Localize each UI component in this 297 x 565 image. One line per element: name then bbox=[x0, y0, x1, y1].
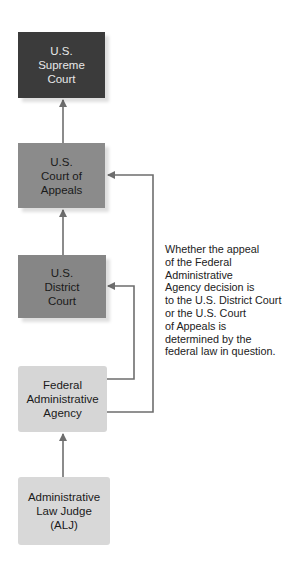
node-federal-agency: Federal Administrative Agency bbox=[18, 366, 107, 432]
node-district-court: U.S. District Court bbox=[18, 255, 106, 318]
explanatory-note: Whether the appeal of the Federal Admini… bbox=[165, 243, 297, 358]
node-alj-label: Administrative Law Judge (ALJ) bbox=[28, 490, 100, 532]
node-court-of-appeals: U.S. Court of Appeals bbox=[18, 143, 105, 208]
node-district-court-label: U.S. District Court bbox=[44, 266, 79, 308]
node-federal-agency-label: Federal Administrative Agency bbox=[26, 378, 98, 420]
node-supreme-court: U.S. Supreme Court bbox=[18, 32, 105, 98]
node-supreme-court-label: U.S. Supreme Court bbox=[38, 44, 85, 86]
node-alj: Administrative Law Judge (ALJ) bbox=[18, 477, 110, 545]
node-court-of-appeals-label: U.S. Court of Appeals bbox=[41, 155, 83, 197]
